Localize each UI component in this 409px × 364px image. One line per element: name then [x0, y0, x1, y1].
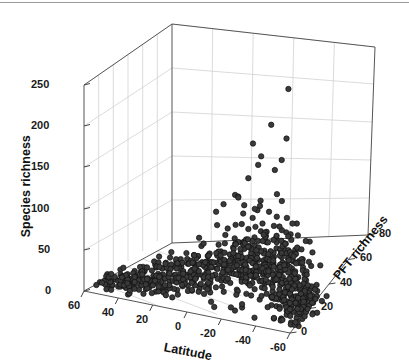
data-point — [196, 235, 201, 240]
data-point — [246, 226, 251, 231]
data-point — [169, 249, 174, 254]
data-point — [196, 289, 201, 294]
data-point — [263, 277, 268, 282]
data-point — [258, 198, 263, 203]
data-point — [290, 221, 295, 226]
y-tick-label-20: 20 — [321, 301, 333, 312]
data-point — [250, 141, 255, 146]
data-point — [125, 281, 130, 286]
data-point — [244, 291, 249, 296]
data-point — [167, 271, 172, 276]
data-point — [222, 250, 227, 255]
data-point — [270, 284, 275, 289]
data-point — [144, 276, 149, 281]
data-point — [324, 293, 329, 298]
data-point — [162, 282, 167, 287]
data-point — [215, 266, 220, 271]
z-tick-label-200: 200 — [31, 120, 49, 131]
data-point — [157, 274, 162, 279]
data-point — [141, 291, 146, 296]
data-point — [288, 313, 293, 318]
data-point — [99, 280, 104, 285]
data-point — [163, 261, 168, 266]
data-point — [242, 262, 247, 267]
data-point — [192, 266, 197, 271]
data-point — [271, 223, 276, 228]
data-point — [269, 122, 274, 127]
data-point — [277, 306, 282, 311]
data-point — [253, 224, 258, 229]
data-point — [287, 276, 292, 281]
data-point — [274, 191, 279, 196]
data-point — [234, 272, 239, 277]
data-point — [163, 293, 168, 298]
data-point — [284, 136, 289, 141]
data-point — [310, 312, 315, 317]
x-tick-label-20: 20 — [136, 314, 148, 325]
data-point — [282, 290, 287, 295]
data-point — [289, 287, 294, 292]
z-tick-label-50: 50 — [38, 244, 50, 255]
data-point — [196, 262, 201, 267]
data-point — [176, 275, 181, 280]
data-point — [287, 307, 292, 312]
data-point — [201, 291, 206, 296]
data-point — [228, 305, 233, 310]
data-point — [245, 237, 250, 242]
data-point — [271, 315, 276, 320]
data-point — [286, 234, 291, 239]
figure-canvas: 250 200 150 100 50 0 60 40 20 0 -20 -40 … — [0, 0, 409, 364]
data-point — [222, 241, 227, 246]
data-point — [94, 282, 99, 287]
data-point — [258, 154, 263, 159]
data-point — [295, 306, 300, 311]
data-point — [264, 291, 269, 296]
data-point — [318, 263, 323, 268]
data-point — [284, 215, 289, 220]
data-point — [279, 250, 284, 255]
data-point — [167, 255, 172, 260]
y-tick-label-0: 0 — [301, 326, 307, 337]
data-point — [254, 255, 259, 260]
data-point — [234, 263, 239, 268]
data-point — [157, 264, 162, 269]
data-point — [239, 301, 244, 306]
data-point — [214, 222, 219, 227]
data-point — [245, 244, 250, 249]
data-point — [250, 215, 255, 220]
data-point — [201, 241, 206, 246]
data-point — [231, 250, 236, 255]
x-tick-label-40: 40 — [102, 307, 114, 318]
data-point — [262, 286, 267, 291]
data-point — [198, 281, 203, 286]
z-tick-label-250: 250 — [31, 79, 49, 90]
data-point — [265, 240, 270, 245]
data-point — [269, 294, 274, 299]
back-wall-panel — [172, 24, 375, 243]
data-point — [213, 209, 218, 214]
data-point — [180, 271, 185, 276]
data-point — [228, 280, 233, 285]
data-point — [143, 282, 148, 287]
data-point — [219, 284, 224, 289]
data-point — [192, 253, 197, 258]
data-point — [239, 221, 244, 226]
data-point — [279, 157, 284, 162]
data-point — [170, 295, 175, 300]
data-point — [247, 283, 252, 288]
data-point — [299, 247, 304, 252]
data-point — [140, 272, 145, 277]
x-tick-label-neg60: -60 — [270, 342, 286, 353]
data-point — [206, 253, 211, 258]
data-point — [254, 248, 259, 253]
data-point — [175, 261, 180, 266]
data-point — [175, 292, 180, 297]
data-point — [156, 284, 161, 289]
data-point — [302, 314, 307, 319]
x-tick-label-0: 0 — [175, 321, 181, 332]
data-point — [246, 175, 251, 180]
data-point — [281, 297, 286, 302]
data-point — [277, 224, 282, 229]
data-point — [108, 287, 113, 292]
data-point — [241, 211, 246, 216]
